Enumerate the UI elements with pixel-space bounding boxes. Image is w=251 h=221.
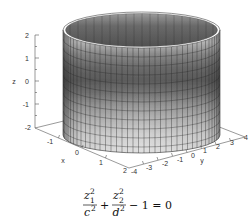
y-tick-label: -1: [177, 156, 183, 163]
x-axis-label: x: [61, 157, 65, 164]
y-tick-label: 1: [203, 147, 207, 154]
z-tick-labels: 2 1 0 -1 -2: [23, 32, 31, 132]
x-tick-label: 1: [99, 159, 103, 166]
y-tick-label: 2: [216, 143, 220, 150]
term1-denominator: c: [84, 206, 90, 219]
term1-numerator-sup: 2: [90, 187, 95, 196]
cylinder-surface-plot: 2 1 0 -1 -2 z -1 0 1 2 x -4 -3 -2 -1 0 1…: [0, 0, 251, 190]
y-tick-label: 0: [191, 152, 195, 159]
y-tick-label: 4: [244, 134, 248, 141]
z-tick-label: -1: [23, 101, 29, 108]
term2-denominator: d: [113, 206, 120, 219]
z-tick-label: 1: [25, 55, 29, 62]
z-tick-label: -2: [25, 124, 31, 131]
z-tick-label: 2: [25, 32, 29, 39]
equation-tail: − 1 = 0: [129, 199, 172, 212]
y-tick-label: 3: [230, 139, 234, 146]
y-tick-label: -2: [162, 160, 168, 167]
x-tick-label: -1: [47, 138, 53, 145]
equation-caption: z 2 1 c 2 + z 2 2 d 2 − 1 = 0: [0, 186, 251, 221]
term2-numerator: z: [112, 189, 119, 202]
z-ticks: [35, 35, 39, 116]
x-tick-label: 0: [75, 149, 79, 156]
term2-denominator-sup: 2: [120, 204, 125, 213]
y-tick-label: -3: [146, 164, 152, 171]
y-axis-label: y: [200, 157, 204, 165]
z-axis-label: z: [12, 78, 16, 85]
x-tick-label: 2: [123, 167, 127, 174]
y-tick-label: -4: [131, 168, 137, 175]
z-tick-label: 0: [25, 78, 29, 85]
term1-numerator: z: [83, 189, 90, 202]
term1-denominator-sup: 2: [91, 204, 96, 213]
plus-sign: +: [100, 199, 109, 212]
term2-numerator-sup: 2: [119, 187, 124, 196]
